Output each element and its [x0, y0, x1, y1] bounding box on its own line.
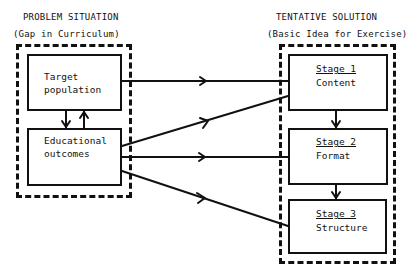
- connector-layer: [0, 0, 408, 280]
- arrow-outcomes-to-stage1: [122, 96, 288, 146]
